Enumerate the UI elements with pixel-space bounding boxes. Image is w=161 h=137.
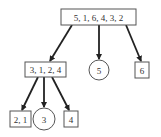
node-root: 5, 1, 6, 4, 3, 2 [61, 9, 136, 25]
node-label: 4 [69, 115, 74, 125]
edge-3124-to-21 [22, 77, 38, 110]
edge-root-to-3124 [50, 25, 72, 61]
node-3124: 3, 1, 2, 4 [25, 62, 66, 77]
node-label: 3 [42, 115, 47, 125]
node-5: 5 [89, 60, 109, 80]
node-label: 6 [140, 66, 145, 76]
node-21: 2, 1 [10, 111, 31, 127]
edge-3124-to-4 [52, 77, 69, 110]
node-4: 4 [64, 111, 78, 127]
node-label: 3, 1, 2, 4 [30, 65, 62, 75]
edge-root-to-6 [126, 25, 141, 61]
tree-diagram: 5, 1, 6, 4, 3, 2 3, 1, 2, 4 5 6 2, 1 3 4 [0, 0, 161, 137]
node-3: 3 [33, 108, 55, 130]
node-6: 6 [135, 62, 149, 78]
node-label: 2, 1 [14, 115, 28, 125]
node-label: 5, 1, 6, 4, 3, 2 [74, 13, 124, 23]
node-label: 5 [97, 66, 102, 76]
